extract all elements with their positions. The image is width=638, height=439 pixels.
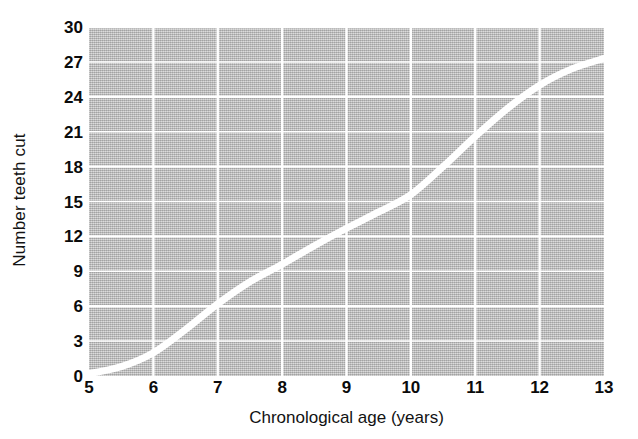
x-tick-label: 6 <box>149 379 158 398</box>
y-tick-label: 3 <box>74 333 83 350</box>
x-tick-label: 5 <box>84 379 93 398</box>
y-axis-title-text: Number teeth cut <box>10 133 30 267</box>
y-tick-label: 30 <box>64 19 83 36</box>
x-tick-label: 10 <box>401 379 420 398</box>
y-tick-label: 15 <box>64 193 83 210</box>
y-axis-title: Number teeth cut <box>0 0 40 400</box>
y-tick-label: 27 <box>64 53 83 70</box>
chart-figure: Number teeth cut 036912151821242730 5678… <box>0 0 638 439</box>
x-axis-title: Chronological age (years) <box>89 408 604 428</box>
y-axis-tick-labels: 036912151821242730 <box>42 0 86 439</box>
x-tick-label: 11 <box>466 379 484 398</box>
plot-area <box>89 27 604 376</box>
x-tick-label: 9 <box>342 379 351 398</box>
y-tick-label: 21 <box>64 123 83 140</box>
x-tick-label: 13 <box>595 379 614 398</box>
x-axis-tick-labels: 5678910111213 <box>0 379 638 405</box>
x-tick-label: 12 <box>530 379 549 398</box>
plot-canvas <box>89 27 604 376</box>
y-tick-label: 6 <box>74 298 83 315</box>
y-tick-label: 9 <box>74 263 83 280</box>
x-tick-label: 7 <box>213 379 222 398</box>
y-tick-label: 12 <box>64 228 83 245</box>
y-tick-label: 24 <box>64 88 83 105</box>
x-tick-label: 8 <box>277 379 286 398</box>
y-tick-label: 18 <box>64 158 83 175</box>
